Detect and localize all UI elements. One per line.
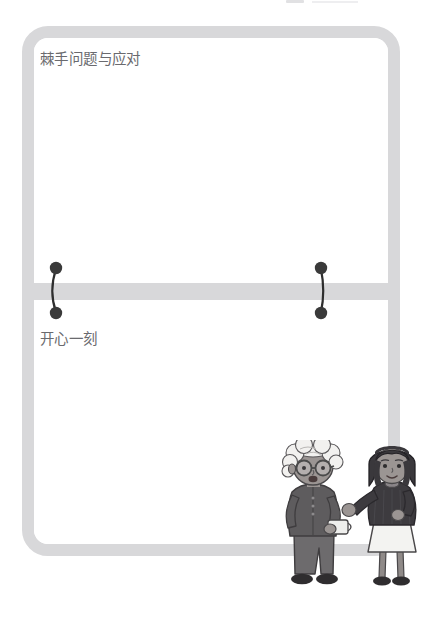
two-women-conversation-illustration bbox=[264, 440, 430, 600]
section-title-tricky-problems: 棘手问题与应对 bbox=[40, 52, 141, 67]
panel-divider-bar bbox=[22, 283, 400, 300]
binder-ring-right-icon bbox=[305, 260, 337, 320]
top-edge-crop-remnant-trail-icon bbox=[312, 1, 358, 3]
elderly-woman-figure bbox=[282, 440, 351, 584]
young-woman-figure bbox=[342, 446, 416, 586]
page-canvas: 棘手问题与应对 开心一刻 bbox=[0, 0, 430, 619]
top-edge-crop-remnant-icon bbox=[286, 0, 304, 3]
binder-ring-left-icon bbox=[40, 260, 72, 320]
section-title-happy-moment: 开心一刻 bbox=[40, 332, 98, 347]
panel-tricky-problems[interactable] bbox=[34, 38, 388, 283]
